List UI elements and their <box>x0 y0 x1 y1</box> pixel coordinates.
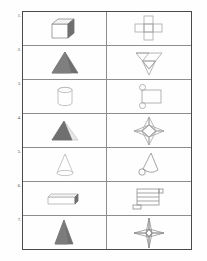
cylinder-net-icon <box>131 82 167 112</box>
table-row: 3. <box>23 80 191 114</box>
tall-pyramid-icon <box>48 218 82 248</box>
net-cell-rectangular-prism-net[interactable] <box>107 182 191 215</box>
net-cell-triangular-pyramid-net[interactable] <box>107 46 191 79</box>
triangular-pyramid-net-icon <box>131 48 167 78</box>
solid-cell-rectangular-prism[interactable] <box>23 182 107 215</box>
worksheet-page: 1. <box>0 0 207 261</box>
rectangular-prism-icon <box>45 188 85 210</box>
table-row: 1. <box>23 12 191 46</box>
solids-nets-table: 1. <box>22 11 192 250</box>
net-cell-cylinder-net[interactable] <box>107 80 191 113</box>
row-number: 6. <box>9 183 21 189</box>
cone-icon <box>48 151 82 179</box>
solid-cell-cube[interactable] <box>23 12 107 45</box>
solid-cell-square-pyramid[interactable] <box>23 114 107 147</box>
solid-cell-tall-pyramid[interactable] <box>23 216 107 249</box>
cube-net-icon <box>131 14 167 44</box>
cube-icon <box>48 16 82 42</box>
solid-cell-cone[interactable] <box>23 148 107 181</box>
square-pyramid-net-icon <box>130 115 168 147</box>
row-number: 2. <box>9 47 21 53</box>
row-number: 5. <box>9 149 21 155</box>
cylinder-icon <box>48 84 82 110</box>
square-pyramid-icon <box>48 118 82 144</box>
table-row: 6. <box>23 182 191 216</box>
triangular-pyramid-icon <box>48 50 82 76</box>
row-number: 3. <box>9 81 21 87</box>
solid-cell-cylinder[interactable] <box>23 80 107 113</box>
row-number: 4. <box>9 115 21 121</box>
table-row: 4. <box>23 114 191 148</box>
row-number: 1. <box>9 13 21 19</box>
net-cell-cube-net[interactable] <box>107 12 191 45</box>
rectangular-prism-net-icon <box>129 184 169 214</box>
table-row: 5. <box>23 148 191 182</box>
tall-pyramid-net-icon <box>129 217 169 249</box>
net-cell-square-pyramid-net[interactable] <box>107 114 191 147</box>
net-cell-cone-net[interactable] <box>107 148 191 181</box>
table-row: 2. <box>23 46 191 80</box>
solid-cell-triangular-pyramid[interactable] <box>23 46 107 79</box>
cone-net-icon <box>131 150 167 180</box>
row-number: 7. <box>9 217 21 223</box>
net-cell-tall-pyramid-net[interactable] <box>107 216 191 249</box>
table-row: 7. <box>23 216 191 249</box>
